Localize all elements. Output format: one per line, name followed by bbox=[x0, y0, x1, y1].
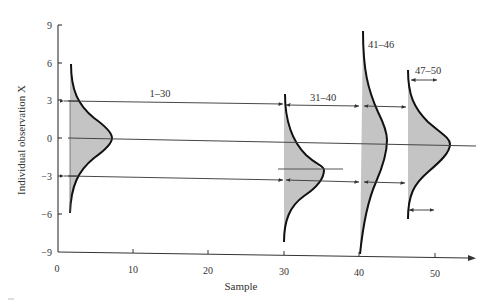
x-tick-labels: 0 10 20 30 40 50 bbox=[55, 263, 441, 279]
y-tick-9: 9 bbox=[47, 20, 52, 31]
x-tick-40: 40 bbox=[354, 267, 364, 278]
process-shift-diagram: 9 6 3 0 −3 −6 −9 0 10 20 30 40 50 Sample… bbox=[0, 0, 490, 303]
y-tick-neg9: −9 bbox=[41, 247, 52, 258]
y-tick-6: 6 bbox=[47, 58, 52, 69]
upper-limit-arrows bbox=[64, 80, 437, 107]
interval-label-47-50: 47–50 bbox=[415, 65, 441, 76]
y-tick-neg6: −6 bbox=[41, 209, 52, 220]
interval-label-41-46: 41–46 bbox=[368, 39, 394, 50]
y-axis-label: Individual observation X bbox=[15, 85, 27, 195]
interval-label-1-30: 1–30 bbox=[150, 88, 171, 99]
x-tick-20: 20 bbox=[203, 265, 213, 276]
x-tick-10: 10 bbox=[128, 264, 138, 275]
distribution-3 bbox=[360, 31, 387, 254]
x-tick-50: 50 bbox=[430, 268, 440, 279]
y-tick-labels: 9 6 3 0 −3 −6 −9 bbox=[41, 20, 52, 258]
lower-limit-arrows bbox=[64, 176, 434, 210]
x-axis bbox=[58, 249, 476, 261]
x-tick-30: 30 bbox=[279, 266, 289, 277]
y-tick-0: 0 bbox=[47, 133, 52, 144]
y-axis bbox=[58, 25, 62, 252]
y-tick-neg3: −3 bbox=[41, 171, 52, 182]
interval-labels: 1–30 31–40 41–46 47–50 bbox=[150, 39, 442, 103]
distribution-2 bbox=[284, 94, 324, 242]
x-axis-label: Sample bbox=[225, 280, 258, 292]
y-tick-3: 3 bbox=[47, 95, 52, 106]
x-tick-0: 0 bbox=[55, 263, 60, 274]
interval-label-31-40: 31–40 bbox=[310, 92, 336, 103]
